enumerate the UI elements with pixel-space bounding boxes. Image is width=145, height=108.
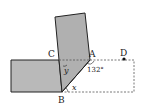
- label-a: A: [88, 49, 96, 59]
- label-c: C: [48, 49, 55, 59]
- left-strip: [11, 60, 62, 92]
- label-b: B: [58, 95, 65, 105]
- label-x: x: [72, 83, 77, 92]
- folded-strip-diagram: C A D B y x 132°: [0, 0, 145, 108]
- label-y: y: [63, 66, 69, 75]
- angle-arc-x: [66, 88, 68, 92]
- label-d: D: [120, 48, 127, 58]
- label-angle-132: 132°: [87, 66, 104, 74]
